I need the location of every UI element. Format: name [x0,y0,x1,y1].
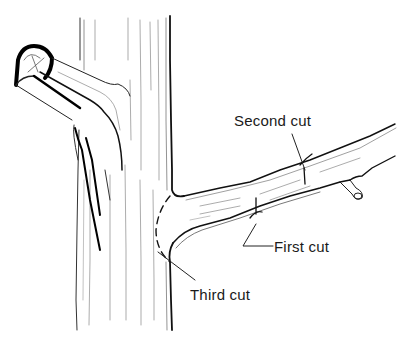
tree-trunk [76,16,184,330]
label-first-cut: First cut [274,238,329,255]
label-second-cut: Second cut [234,112,311,129]
dead-stub-left [16,46,130,250]
label-third-cut: Third cut [190,286,250,303]
leader-lines [158,134,305,280]
